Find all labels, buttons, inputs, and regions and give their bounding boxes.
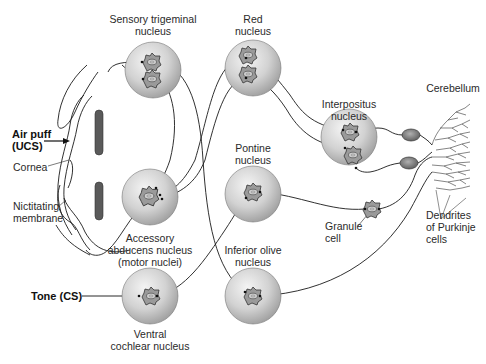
label-cerebellum: Cerebellum xyxy=(418,82,486,94)
label-line: cochlear nucleus xyxy=(100,340,200,352)
eye-structures xyxy=(56,65,130,255)
label-red-nucleus: Red nucleus xyxy=(223,13,283,37)
label-interpositus: Interpositus nucleus xyxy=(314,98,384,122)
label-nictitating-membrane: Nictitating membrane xyxy=(13,200,63,224)
label-line: Cerebellum xyxy=(418,82,486,94)
label-purkinje-dendrites: Dendrites of Purkinje cells xyxy=(426,209,476,245)
label-line: Nictitating xyxy=(13,200,63,212)
nucleus-ventral-cochlear xyxy=(122,268,178,324)
label-line: (motor nuclei) xyxy=(100,256,200,268)
label-accessory-abducens: Accessory abducens nucleus (motor nuclei… xyxy=(100,232,200,268)
label-line: nucleus xyxy=(213,256,293,268)
label-line: nucleus xyxy=(223,25,283,37)
figure-caption-truncated xyxy=(10,357,476,364)
label-line: membrane xyxy=(13,212,63,224)
label-line: abducens nucleus xyxy=(100,244,200,256)
label-line: nucleus xyxy=(103,25,203,37)
purkinje-cell-icon xyxy=(400,157,418,169)
label-inferior-olive: Inferior olive nucleus xyxy=(213,244,293,268)
label-line: Granule xyxy=(325,220,362,232)
label-tone: Tone (CS) xyxy=(31,290,82,302)
label-line: Inferior olive xyxy=(213,244,293,256)
purkinje-dendrite-tree xyxy=(432,104,470,190)
purkinje-cell-icon xyxy=(402,129,420,141)
label-line: Air puff xyxy=(12,128,51,140)
nucleus-red xyxy=(225,40,281,96)
label-line: cell xyxy=(325,232,362,244)
label-line: Cornea xyxy=(13,161,47,173)
label-granule-cell: Granule cell xyxy=(325,220,362,244)
nucleus-accessory-abducens xyxy=(122,169,178,225)
label-line: nucleus xyxy=(223,154,283,166)
nucleus-pontine xyxy=(225,166,281,222)
label-line: nucleus xyxy=(314,110,384,122)
label-pontine: Pontine nucleus xyxy=(223,142,283,166)
label-line: Pontine xyxy=(223,142,283,154)
label-line: cells xyxy=(426,233,476,245)
label-line: Interpositus xyxy=(314,98,384,110)
label-line: Tone (CS) xyxy=(31,290,82,302)
cornea-leader-line xyxy=(48,160,69,166)
nucleus-sensory-trigeminal xyxy=(125,42,181,98)
label-line: (UCS) xyxy=(12,140,51,152)
label-sensory-trigeminal: Sensory trigeminal nucleus xyxy=(103,13,203,37)
nucleus-inferior-olive xyxy=(225,268,281,324)
label-line: Accessory xyxy=(100,232,200,244)
label-line: Ventral xyxy=(100,328,200,340)
label-line: Sensory trigeminal xyxy=(103,13,203,25)
eyeblink-circuit-diagram: Sensory trigeminal nucleus Red nucleus I… xyxy=(0,0,486,364)
diagram-canvas xyxy=(0,0,486,364)
label-ventral-cochlear: Ventral cochlear nucleus xyxy=(100,328,200,352)
label-air-puff: Air puff (UCS) xyxy=(12,128,51,152)
upper-eyelid-muscle xyxy=(95,110,103,155)
label-line: Dendrites xyxy=(426,209,476,221)
label-line: Red xyxy=(223,13,283,25)
lower-eyelid-muscle xyxy=(95,182,103,220)
label-cornea: Cornea xyxy=(13,161,47,173)
label-line: of Purkinje xyxy=(426,221,476,233)
